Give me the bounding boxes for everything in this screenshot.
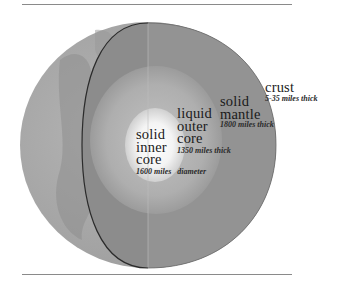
- bottom-rule: [22, 274, 292, 275]
- layer-detail: 1600 miles diameter: [136, 168, 206, 176]
- label-inner-core: solid inner core 1600 miles diameter: [136, 128, 206, 176]
- layer-name-line: core: [136, 153, 206, 166]
- inner-core-unit: diameter: [177, 167, 206, 176]
- inner-core-size: 1600 miles: [136, 167, 171, 176]
- layer-name: crust: [265, 81, 317, 94]
